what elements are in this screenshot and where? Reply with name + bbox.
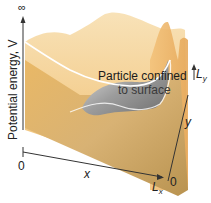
y-axis-label: y — [185, 116, 191, 128]
v-axis-arrow — [21, 16, 26, 23]
ly-label: Ly — [196, 68, 207, 83]
potential-energy-label: Potential energy, V — [6, 39, 20, 140]
lx-label: Lx — [152, 181, 163, 196]
annotation-line2: to surface — [118, 83, 171, 97]
annotation-line1: Particle confined — [98, 69, 187, 83]
x-origin-label: 0 — [18, 160, 25, 172]
x-axis-label: x — [84, 168, 90, 180]
box-diagram — [0, 0, 211, 203]
infinity-symbol: ∞ — [18, 2, 26, 13]
y-origin-label: 0 — [170, 176, 177, 188]
